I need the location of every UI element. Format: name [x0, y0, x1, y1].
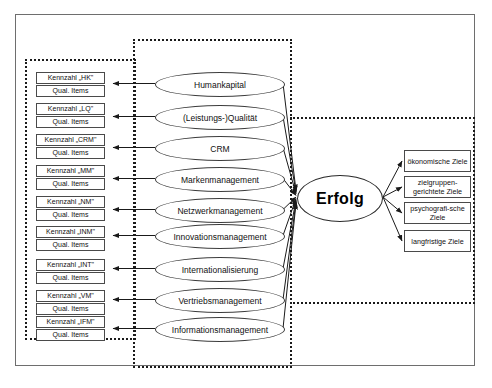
construct-node[interactable]: Vertriebsmanagement — [155, 288, 285, 313]
indicator-group: Kennzahl „LQ"Qual. Items — [36, 103, 105, 128]
construct-node-label: Innovationsmanagement — [173, 232, 266, 242]
indicator-items-box[interactable]: Qual. Items — [36, 272, 105, 284]
indicator-items-box[interactable]: Qual. Items — [36, 85, 105, 97]
indicator-code-box[interactable]: Kennzahl „INM" — [36, 226, 105, 238]
indicator-items-box[interactable]: Qual. Items — [36, 116, 105, 128]
construct-node-label: Netzwerkmanagement — [177, 206, 262, 216]
diagram-canvas: Kennzahl „HK"Qual. ItemsKennzahl „LQ"Qua… — [0, 0, 492, 388]
indicator-group: Kennzahl „NM"Qual. Items — [36, 196, 105, 221]
indicator-group: Kennzahl „IFM"Qual. Items — [36, 316, 105, 341]
indicator-code-box[interactable]: Kennzahl „MM" — [36, 165, 105, 177]
goal-box-label: ökonomische Ziele — [408, 157, 468, 166]
indicator-group: Kennzahl „INM"Qual. Items — [36, 226, 105, 251]
indicator-code-box[interactable]: Kennzahl „LQ" — [36, 103, 105, 115]
construct-node[interactable]: CRM — [155, 136, 285, 161]
indicator-items-box[interactable]: Qual. Items — [36, 209, 105, 221]
indicator-group: Kennzahl „CRM"Qual. Items — [36, 134, 105, 159]
construct-node-label: CRM — [210, 144, 229, 154]
goal-box[interactable]: ökonomische Ziele — [404, 150, 471, 172]
indicator-items-box[interactable]: Qual. Items — [36, 329, 105, 341]
indicator-group: Kennzahl „HK"Qual. Items — [36, 72, 105, 97]
construct-node[interactable]: Markenmanagement — [155, 167, 285, 192]
construct-node[interactable]: Informationsmanagement — [155, 317, 285, 342]
success-node-label: Erfolg — [316, 190, 364, 208]
indicator-group: Kennzahl „MM"Qual. Items — [36, 165, 105, 190]
construct-node[interactable]: Internationalisierung — [155, 257, 285, 282]
goal-box-label: langfristige Ziele — [411, 237, 463, 246]
indicator-items-box[interactable]: Qual. Items — [36, 239, 105, 251]
indicator-code-box[interactable]: Kennzahl „HK" — [36, 72, 105, 84]
construct-node[interactable]: (Leistungs-)Qualität — [155, 105, 285, 130]
construct-node-label: Internationalisierung — [182, 265, 259, 275]
indicator-code-box[interactable]: Kennzahl „NM" — [36, 196, 105, 208]
goal-box[interactable]: psychografi-sche Ziele — [404, 202, 471, 224]
indicator-items-box[interactable]: Qual. Items — [36, 178, 105, 190]
indicator-code-box[interactable]: Kennzahl „CRM" — [36, 134, 105, 146]
construct-node-label: Humankapital — [194, 80, 246, 90]
construct-node-label: Markenmanagement — [181, 175, 259, 185]
indicator-group: Kennzahl „INT"Qual. Items — [36, 259, 105, 284]
construct-node[interactable]: Humankapital — [155, 72, 285, 97]
success-node[interactable]: Erfolg — [297, 175, 383, 222]
construct-node-label: Vertriebsmanagement — [178, 296, 261, 306]
goal-box[interactable]: zielgruppen-gerichtete Ziele — [404, 176, 471, 198]
indicator-items-box[interactable]: Qual. Items — [36, 303, 105, 315]
goal-box-label: zielgruppen-gerichtete Ziele — [407, 178, 468, 196]
indicator-code-box[interactable]: Kennzahl „INT" — [36, 259, 105, 271]
goal-box[interactable]: langfristige Ziele — [404, 230, 471, 252]
construct-node-label: (Leistungs-)Qualität — [183, 113, 257, 123]
indicator-code-box[interactable]: Kennzahl „VM" — [36, 290, 105, 302]
construct-node[interactable]: Innovationsmanagement — [155, 224, 285, 249]
indicator-items-box[interactable]: Qual. Items — [36, 147, 105, 159]
construct-node[interactable]: Netzwerkmanagement — [155, 198, 285, 223]
indicator-code-box[interactable]: Kennzahl „IFM" — [36, 316, 105, 328]
construct-node-label: Informationsmanagement — [172, 325, 268, 335]
goal-box-label: psychografi-sche Ziele — [407, 204, 468, 222]
indicator-group: Kennzahl „VM"Qual. Items — [36, 290, 105, 315]
